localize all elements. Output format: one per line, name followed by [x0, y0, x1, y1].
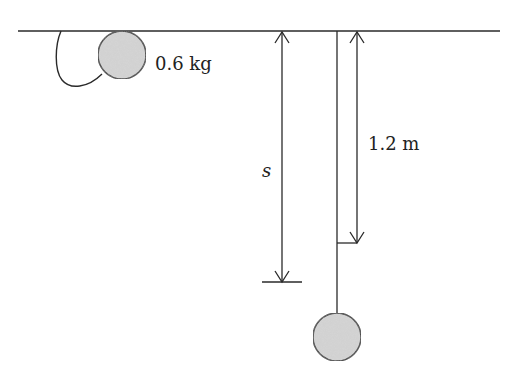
- ball-final: [313, 313, 361, 361]
- mass-label: 0.6 kg: [155, 53, 212, 74]
- ball-initial: [98, 31, 146, 79]
- pendulum-drop-diagram: 0.6 kg s 1.2 m: [0, 0, 516, 380]
- diagram-canvas: 0.6 kg s 1.2 m: [0, 0, 516, 380]
- slack-string: [56, 31, 102, 86]
- distance-label: s: [262, 160, 271, 181]
- drop-label: 1.2 m: [368, 133, 419, 154]
